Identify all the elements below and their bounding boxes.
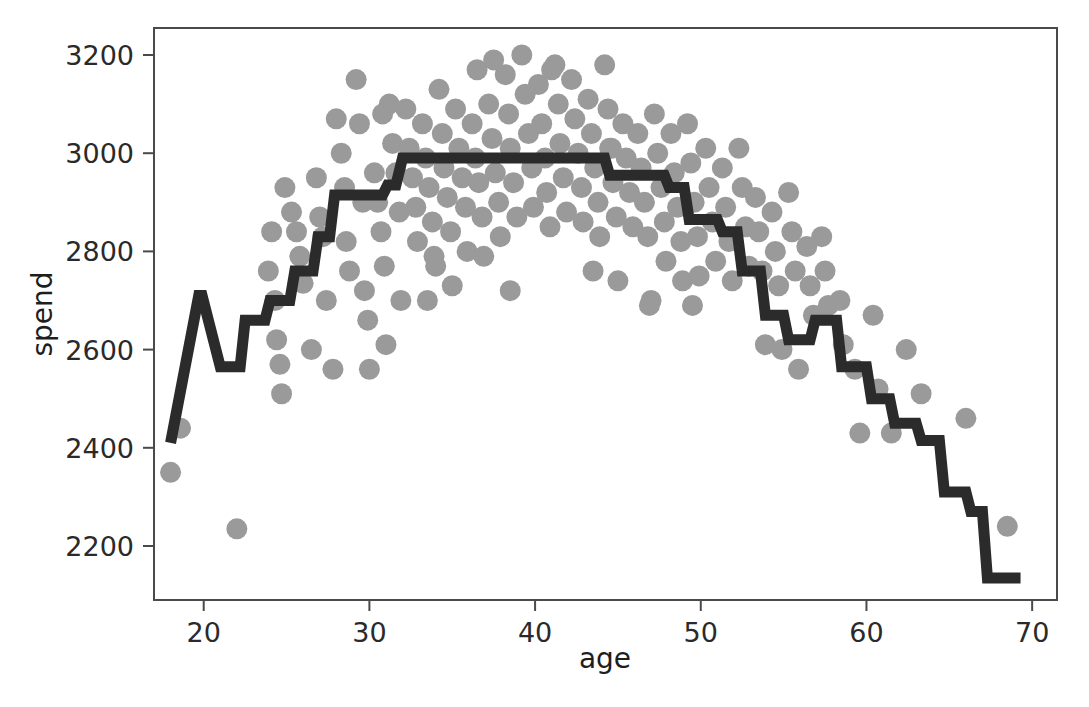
scatter-point [490, 226, 511, 247]
scatter-point [462, 113, 483, 134]
scatter-point [322, 359, 343, 380]
scatter-point [911, 383, 932, 404]
scatter-point [419, 177, 440, 198]
scatter-point [682, 295, 703, 316]
scatter-point [390, 290, 411, 311]
scatter-point [561, 69, 582, 90]
scatter-point [699, 177, 720, 198]
scatter-point [442, 275, 463, 296]
scatter-point [955, 408, 976, 429]
scatter-point [571, 177, 592, 198]
scatter-point [564, 108, 585, 129]
scatter-point [705, 251, 726, 272]
scatter-point [472, 207, 493, 228]
scatter-point [412, 113, 433, 134]
scatter-point [478, 94, 499, 115]
scatter-point [483, 49, 504, 70]
scatter-point [226, 518, 247, 539]
scatter-point [286, 221, 307, 242]
y-tick-label: 2400 [65, 433, 134, 464]
scatter-point [346, 69, 367, 90]
scatter-point [428, 79, 449, 100]
scatter-point [655, 251, 676, 272]
x-tick-label: 40 [518, 617, 552, 648]
scatter-point [422, 211, 443, 232]
scatter-point [437, 187, 458, 208]
scatter-point [589, 226, 610, 247]
scatter-point [536, 182, 557, 203]
scatter-point [473, 246, 494, 267]
scatter-point [687, 226, 708, 247]
scatter-point [762, 202, 783, 223]
x-tick-label: 30 [352, 617, 386, 648]
scatter-point [432, 123, 453, 144]
scatter-point [316, 290, 337, 311]
scatter-point [488, 192, 509, 213]
scatter-point [594, 54, 615, 75]
scatter-point [364, 162, 385, 183]
scatter-point [728, 138, 749, 159]
scatter-point [301, 339, 322, 360]
x-tick-label: 70 [1015, 617, 1049, 648]
scatter-point [583, 261, 604, 282]
scatter-point [274, 177, 295, 198]
y-axis-label: spend [26, 271, 59, 356]
scatter-point [266, 329, 287, 350]
scatter-point [531, 113, 552, 134]
scatter-plot-canvas: 220024002600280030003200 203040506070 ag… [0, 0, 1089, 707]
scatter-point [485, 162, 506, 183]
scatter-point [997, 516, 1018, 537]
scatter-point [372, 103, 393, 124]
scatter-point [553, 167, 574, 188]
scatter-point [395, 99, 416, 120]
scatter-point [896, 339, 917, 360]
scatter-point [863, 305, 884, 326]
scatter-point [281, 202, 302, 223]
scatter-point [440, 221, 461, 242]
scatter-point [306, 167, 327, 188]
scatter-point [680, 153, 701, 174]
x-tick-label: 50 [684, 617, 718, 648]
scatter-point [637, 226, 658, 247]
scatter-point [541, 59, 562, 80]
scatter-point [712, 157, 733, 178]
scatter-point [573, 211, 594, 232]
scatter-point [785, 261, 806, 282]
y-tick-label: 2800 [65, 236, 134, 267]
scatter-point [849, 423, 870, 444]
scatter-point [417, 290, 438, 311]
scatter-point [778, 182, 799, 203]
scatter-point [445, 99, 466, 120]
scatter-point [354, 280, 375, 301]
y-tick-label: 2200 [65, 531, 134, 562]
scatter-point [331, 143, 352, 164]
scatter-point [588, 192, 609, 213]
scatter-point [370, 221, 391, 242]
scatter-point [677, 113, 698, 134]
x-axis-label: age [579, 642, 631, 675]
scatter-point [748, 221, 769, 242]
scatter-point [800, 275, 821, 296]
scatter-point [482, 128, 503, 149]
scatter-point [548, 94, 569, 115]
scatter-point [289, 246, 310, 267]
scatter-point [597, 99, 618, 120]
scatter-point [375, 334, 396, 355]
scatter-point [500, 280, 521, 301]
scatter-point [581, 123, 602, 144]
scatter-point [357, 310, 378, 331]
figure-container: 220024002600280030003200 203040506070 ag… [0, 0, 1089, 707]
scatter-point [407, 231, 428, 252]
scatter-point [359, 359, 380, 380]
scatter-point [261, 221, 282, 242]
scatter-point [815, 261, 836, 282]
y-tick-label: 2600 [65, 335, 134, 366]
scatter-point [829, 290, 850, 311]
scatter-point [689, 265, 710, 286]
scatter-point [425, 256, 446, 277]
scatter-point [781, 221, 802, 242]
scatter-point [641, 290, 662, 311]
scatter-point [271, 383, 292, 404]
scatter-point [634, 192, 655, 213]
x-tick-label: 60 [849, 617, 883, 648]
